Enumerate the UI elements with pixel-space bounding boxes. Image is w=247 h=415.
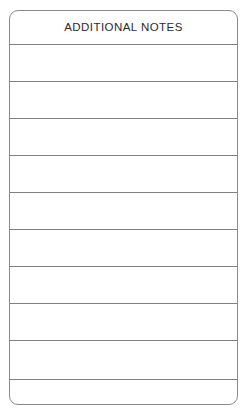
rule-line-1 (10, 44, 237, 45)
rule-line-8 (10, 303, 237, 304)
additional-notes-form: ADDITIONAL NOTES (9, 10, 238, 405)
notes-row-1[interactable] (10, 45, 237, 81)
notes-row-2[interactable] (10, 82, 237, 118)
rule-line-7 (10, 266, 237, 267)
notes-row-10[interactable] (10, 380, 237, 404)
notes-row-6[interactable] (10, 230, 237, 266)
rule-line-6 (10, 229, 237, 230)
notes-row-4[interactable] (10, 156, 237, 192)
rule-line-3 (10, 118, 237, 119)
rule-line-10 (10, 379, 237, 380)
rule-line-2 (10, 81, 237, 82)
notes-row-7[interactable] (10, 267, 237, 303)
page-title: ADDITIONAL NOTES (64, 22, 183, 34)
rule-line-4 (10, 155, 237, 156)
notes-row-8[interactable] (10, 304, 237, 340)
rule-line-5 (10, 192, 237, 193)
notes-row-3[interactable] (10, 119, 237, 155)
notes-row-5[interactable] (10, 193, 237, 229)
notes-row-9[interactable] (10, 341, 237, 379)
form-header: ADDITIONAL NOTES (10, 11, 237, 44)
rule-line-9 (10, 340, 237, 341)
